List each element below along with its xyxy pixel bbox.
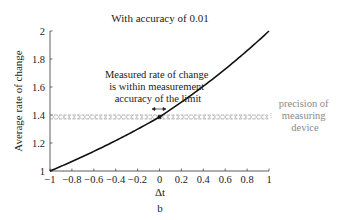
y-tick-label: 1.4 bbox=[32, 110, 46, 121]
chart: With accuracy of 0.01 11.21.41.61.82 −1−… bbox=[0, 0, 340, 220]
x-tick-label: 0.2 bbox=[175, 174, 188, 185]
x-tick-label: −0.6 bbox=[84, 174, 103, 185]
x-tick-label: −0.8 bbox=[62, 174, 81, 185]
x-tick-label: 1 bbox=[266, 174, 271, 185]
y-axis-label: Average rate of change bbox=[12, 50, 24, 152]
x-tick-label: 0.6 bbox=[219, 174, 232, 185]
y-ticks: 11.21.41.61.82 bbox=[32, 26, 53, 177]
double-arrow-icon bbox=[152, 108, 166, 111]
x-tick-label: −1 bbox=[44, 174, 55, 185]
subfigure-label: b bbox=[157, 202, 163, 214]
x-tick-label: 0.8 bbox=[241, 174, 254, 185]
limit-point bbox=[158, 115, 162, 119]
x-tick-label: 0 bbox=[157, 174, 162, 185]
precision-annotation: precision of measuring device bbox=[279, 98, 332, 133]
measured-annotation: Measured rate of change is within measur… bbox=[105, 69, 211, 104]
y-tick-label: 1.8 bbox=[32, 54, 45, 65]
y-tick-label: 1.2 bbox=[32, 138, 45, 149]
y-tick-label: 1.6 bbox=[32, 82, 45, 93]
x-tick-label: −0.4 bbox=[106, 174, 126, 185]
x-tick-label: −0.2 bbox=[128, 174, 147, 185]
x-tick-label: 0.4 bbox=[197, 174, 211, 185]
y-tick-label: 2 bbox=[40, 26, 45, 37]
x-axis-label: Δt bbox=[155, 186, 165, 198]
chart-title: With accuracy of 0.01 bbox=[111, 12, 208, 24]
